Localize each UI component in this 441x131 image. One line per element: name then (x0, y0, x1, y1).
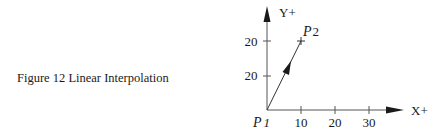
x-axis: X+ 10 20 30 (267, 103, 428, 130)
x-axis-arrow-icon (386, 107, 404, 114)
x-tick-label-30: 30 (363, 115, 376, 130)
interpolation-diagram: Y+ 20 20 X+ 10 20 30 P2 P1 (0, 0, 441, 131)
y-tick-label-10: 20 (245, 68, 258, 83)
interpolation-vector (267, 37, 305, 110)
p1-label: P1 (252, 115, 270, 130)
y-axis-arrow-icon (264, 6, 271, 22)
y-tick-label-20: 20 (245, 34, 258, 49)
y-axis: Y+ 20 20 (245, 5, 296, 110)
direction-arrow-icon (283, 61, 292, 75)
x-tick-label-10: 10 (295, 115, 308, 130)
p2-label: P2 (302, 24, 319, 39)
x-axis-label: X+ (411, 103, 428, 118)
x-tick-label-20: 20 (329, 115, 342, 130)
y-axis-label: Y+ (279, 5, 296, 20)
